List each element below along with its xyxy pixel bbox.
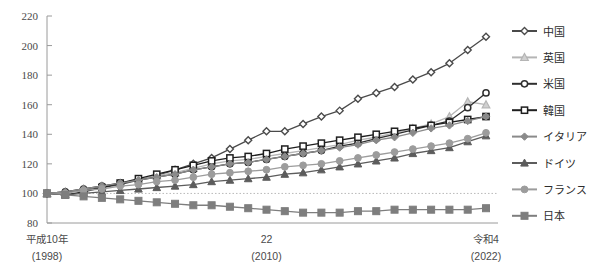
data-point-marker bbox=[281, 208, 288, 215]
data-point-marker bbox=[62, 191, 69, 198]
axis-lines bbox=[47, 16, 498, 223]
data-point-marker bbox=[263, 166, 270, 173]
data-point-marker bbox=[117, 196, 124, 203]
data-point-marker bbox=[227, 169, 234, 176]
data-point-marker bbox=[483, 90, 489, 96]
data-point-marker bbox=[190, 202, 197, 209]
data-point-marker bbox=[153, 199, 160, 206]
data-point-marker bbox=[336, 158, 343, 165]
data-point-marker bbox=[281, 128, 288, 135]
y-axis-tick-label: 180 bbox=[22, 69, 39, 81]
data-point-marker bbox=[391, 149, 398, 156]
data-point-marker bbox=[153, 178, 160, 185]
data-point-marker bbox=[521, 81, 527, 87]
data-point-marker bbox=[300, 143, 306, 149]
legend-item-フランス[interactable]: フランス bbox=[512, 184, 587, 196]
data-point-marker bbox=[446, 140, 453, 147]
data-point-marker bbox=[354, 95, 361, 102]
data-point-marker bbox=[281, 163, 288, 170]
data-point-marker bbox=[409, 206, 416, 213]
data-point-marker bbox=[464, 98, 472, 105]
data-point-marker bbox=[391, 83, 398, 90]
data-point-marker bbox=[373, 152, 380, 159]
data-point-marker bbox=[521, 186, 528, 193]
data-point-marker bbox=[336, 107, 343, 114]
data-point-marker bbox=[483, 129, 490, 136]
x-axis-year-label: (1998) bbox=[32, 250, 62, 262]
legend-item-label: 韓国 bbox=[543, 105, 565, 117]
data-point-marker bbox=[263, 128, 270, 135]
legend-item-韓国[interactable]: 韓国 bbox=[512, 105, 565, 117]
chart-container: 80100120140160180200220 平成10年(1998)22(20… bbox=[0, 0, 597, 271]
data-point-marker bbox=[80, 193, 87, 200]
y-axis-tick-labels: 80100120140160180200220 bbox=[22, 10, 39, 229]
data-point-marker bbox=[409, 146, 416, 153]
line-chart: 80100120140160180200220 平成10年(1998)22(20… bbox=[0, 0, 597, 271]
data-point-marker bbox=[98, 186, 105, 193]
data-point-marker bbox=[208, 171, 215, 178]
x-axis-year-label: (2010) bbox=[251, 250, 281, 262]
chart-legend: 中国英国米国韓国イタリアドイツフランス日本 bbox=[512, 26, 587, 223]
y-axis-tick-label: 160 bbox=[22, 99, 39, 111]
data-point-marker bbox=[318, 160, 325, 167]
data-point-marker bbox=[263, 206, 270, 213]
data-point-marker bbox=[135, 181, 142, 188]
data-point-marker bbox=[355, 134, 361, 140]
data-point-marker bbox=[300, 162, 307, 169]
x-axis-era-label: 令和4 bbox=[473, 233, 499, 245]
x-axis-tick-labels: 平成10年(1998)22(2010)令和4(2022) bbox=[26, 233, 501, 262]
x-axis-year-label: (2022) bbox=[471, 250, 501, 262]
data-point-marker bbox=[172, 177, 179, 184]
legend-item-label: 中国 bbox=[543, 26, 565, 38]
legend-item-中国[interactable]: 中国 bbox=[512, 26, 565, 38]
data-point-marker bbox=[300, 120, 307, 127]
data-point-marker bbox=[465, 105, 471, 111]
data-point-marker bbox=[464, 135, 471, 142]
data-point-marker bbox=[318, 140, 324, 146]
data-series-group bbox=[43, 33, 490, 216]
y-axis-tick-label: 120 bbox=[22, 158, 39, 170]
x-axis-era-label: 22 bbox=[261, 233, 273, 245]
legend-item-英国[interactable]: 英国 bbox=[512, 51, 565, 64]
data-point-marker bbox=[117, 183, 124, 190]
legend-item-label: 米国 bbox=[543, 78, 565, 90]
data-point-marker bbox=[337, 137, 343, 143]
data-point-marker bbox=[245, 168, 252, 175]
legend-item-日本[interactable]: 日本 bbox=[512, 209, 565, 222]
data-point-marker bbox=[245, 205, 252, 212]
data-point-marker bbox=[318, 113, 325, 120]
data-point-marker bbox=[245, 137, 252, 144]
legend-item-label: 日本 bbox=[543, 209, 565, 222]
legend-item-ドイツ[interactable]: ドイツ bbox=[512, 158, 576, 170]
legend-item-米国[interactable]: 米国 bbox=[512, 78, 565, 90]
data-point-marker bbox=[446, 206, 453, 213]
data-point-marker bbox=[336, 209, 343, 216]
data-point-marker bbox=[521, 28, 528, 35]
data-point-marker bbox=[373, 208, 380, 215]
legend-item-label: イタリア bbox=[543, 131, 587, 143]
legend-item-label: フランス bbox=[543, 184, 587, 196]
y-axis-tick-label: 80 bbox=[27, 217, 39, 229]
data-point-marker bbox=[135, 197, 142, 204]
data-point-marker bbox=[428, 69, 435, 76]
y-axis-tick-label: 200 bbox=[22, 40, 39, 52]
legend-item-label: 英国 bbox=[543, 51, 565, 64]
data-point-marker bbox=[391, 206, 398, 213]
data-point-marker bbox=[483, 205, 490, 212]
data-point-marker bbox=[428, 206, 435, 213]
data-point-marker bbox=[300, 209, 307, 216]
y-axis-tick-label: 100 bbox=[22, 187, 39, 199]
data-point-marker bbox=[190, 174, 197, 181]
data-point-marker bbox=[521, 212, 528, 219]
plot-axis-frame bbox=[47, 16, 498, 223]
data-point-marker bbox=[428, 143, 435, 150]
data-point-marker bbox=[355, 155, 362, 162]
y-axis-tick-label: 220 bbox=[22, 10, 39, 22]
data-point-marker bbox=[44, 190, 51, 197]
legend-item-イタリア[interactable]: イタリア bbox=[512, 131, 587, 143]
y-axis-tick-label: 140 bbox=[22, 128, 39, 140]
data-point-marker bbox=[226, 203, 233, 210]
data-point-marker bbox=[464, 206, 471, 213]
data-point-marker bbox=[208, 202, 215, 209]
data-point-marker bbox=[409, 76, 416, 83]
